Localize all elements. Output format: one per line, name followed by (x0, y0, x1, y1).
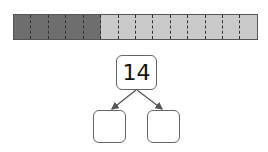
part-right-box[interactable] (147, 110, 180, 143)
arrow-right-icon (137, 90, 162, 109)
arrow-left-icon (112, 90, 136, 109)
whole-value: 14 (123, 60, 151, 85)
whole-box: 14 (116, 55, 157, 90)
part-left-box[interactable] (93, 110, 126, 143)
